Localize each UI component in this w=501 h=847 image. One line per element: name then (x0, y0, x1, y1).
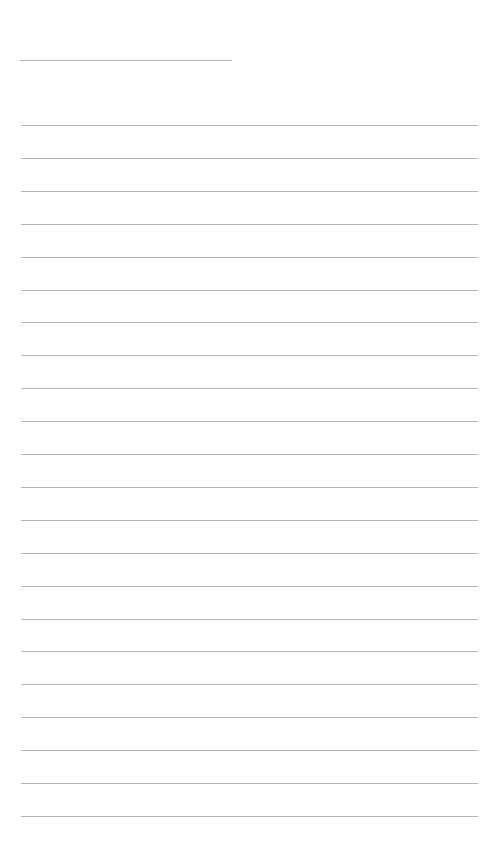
writing-line (21, 586, 478, 587)
writing-line (21, 388, 478, 389)
writing-line (21, 322, 478, 323)
writing-line (21, 487, 478, 488)
writing-line (21, 684, 478, 685)
writing-line (21, 717, 478, 718)
lined-page (0, 0, 501, 847)
writing-line (21, 158, 478, 159)
writing-line (21, 257, 478, 258)
title-line (20, 60, 232, 61)
writing-line (21, 816, 478, 817)
writing-line (21, 125, 478, 126)
writing-line (21, 750, 478, 751)
writing-line (21, 224, 478, 225)
writing-line (21, 454, 478, 455)
writing-line (21, 651, 478, 652)
writing-line (21, 783, 478, 784)
writing-line (21, 290, 478, 291)
writing-line (21, 553, 478, 554)
writing-line (21, 520, 478, 521)
writing-line (21, 421, 478, 422)
writing-line (21, 355, 478, 356)
writing-line (21, 191, 478, 192)
writing-line (21, 619, 478, 620)
